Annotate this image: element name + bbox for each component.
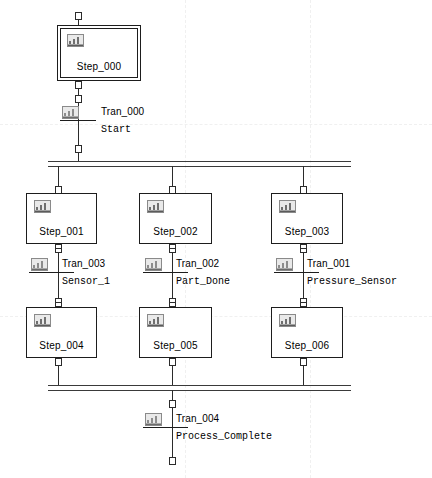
step-label: Step_005: [140, 340, 211, 351]
connector-pin-tran000-out[interactable]: [75, 145, 82, 153]
connector-pin-step006-out[interactable]: [300, 358, 307, 366]
transition-name: Tran_004: [176, 413, 219, 424]
transition-bar-tran_002[interactable]: [143, 272, 188, 273]
transition-name: Tran_000: [101, 106, 144, 117]
transition-name: Tran_003: [62, 258, 105, 269]
link-step001-to-tran003: [58, 253, 59, 298]
step-label: Step_001: [27, 226, 96, 237]
transition-condition: Pressure_Sensor: [307, 276, 397, 287]
step-action-icon: [67, 34, 84, 47]
transition-condition-icon: [276, 258, 293, 271]
connector-pin-step000-out[interactable]: [75, 81, 82, 89]
parallel-divergence-rail[interactable]: [48, 161, 351, 167]
step-action-icon: [34, 200, 51, 213]
transition-condition-icon: [31, 258, 48, 271]
step-label: Step_002: [140, 226, 211, 237]
step-action-icon: [147, 200, 164, 213]
connector-pin-tran004-in[interactable]: [169, 400, 176, 408]
transition-bar-tran_003[interactable]: [29, 272, 74, 273]
connector-pin-step003-out[interactable]: [300, 244, 307, 253]
connector-pin-terminal[interactable]: [169, 457, 176, 465]
sfc-canvas[interactable]: Step_000 Tran_000 Start: [0, 0, 432, 478]
transition-name: Tran_001: [307, 258, 350, 269]
link-step006-to-convergence: [303, 366, 304, 385]
connector-pin-step001-out[interactable]: [55, 244, 62, 253]
step-block-step_004[interactable]: Step_004: [26, 307, 97, 358]
step-label: Step_003: [272, 226, 342, 237]
step-action-icon: [279, 314, 296, 327]
parallel-convergence-rail[interactable]: [48, 385, 351, 391]
transition-name: Tran_002: [176, 258, 219, 269]
step-block-step_006[interactable]: Step_006: [271, 307, 343, 358]
transition-condition: Start: [101, 124, 131, 135]
connector-pin-step004-out[interactable]: [55, 358, 62, 366]
transition-bar-tran_004[interactable]: [143, 427, 188, 428]
step-action-icon: [279, 200, 296, 213]
step-action-icon: [34, 314, 51, 327]
connector-pin-step005-in[interactable]: [169, 298, 176, 307]
link-step005-to-convergence: [172, 366, 173, 385]
step-block-step_005[interactable]: Step_005: [139, 307, 212, 358]
step-block-step_002[interactable]: Step_002: [139, 193, 212, 244]
transition-condition-icon: [145, 413, 162, 426]
connector-pin-step004-in[interactable]: [55, 298, 62, 307]
step-block-step_003[interactable]: Step_003: [271, 193, 343, 244]
step-block-step_001[interactable]: Step_001: [26, 193, 97, 244]
connector-pin-entry[interactable]: [75, 12, 82, 20]
step-block-step_000[interactable]: Step_000: [57, 25, 141, 81]
step-label: Step_006: [272, 340, 342, 351]
connector-pin-step002-out[interactable]: [169, 244, 176, 253]
link-to-tran004: [172, 408, 173, 457]
transition-condition: Part_Done: [176, 276, 230, 287]
step-label: Step_000: [58, 61, 140, 72]
step-action-icon: [147, 314, 164, 327]
step-label: Step_004: [27, 340, 96, 351]
link-step003-to-tran001: [303, 253, 304, 298]
transition-condition: Sensor_1: [62, 276, 110, 287]
transition-bar-tran_000[interactable]: [60, 120, 96, 121]
transition-condition-icon: [145, 258, 162, 271]
link-step004-to-convergence: [58, 366, 59, 385]
transition-condition: Process_Complete: [176, 431, 272, 442]
connector-pin-step006-in[interactable]: [300, 298, 307, 307]
connector-pin-step005-out[interactable]: [169, 358, 176, 366]
page-guide-horizontal-1: [0, 124, 432, 125]
connector-pin-tran000-in[interactable]: [75, 95, 82, 103]
link-convergence-to-pin: [172, 390, 173, 400]
link-step002-to-tran002: [172, 253, 173, 298]
transition-condition-icon: [62, 106, 79, 119]
transition-bar-tran_001[interactable]: [274, 272, 319, 273]
